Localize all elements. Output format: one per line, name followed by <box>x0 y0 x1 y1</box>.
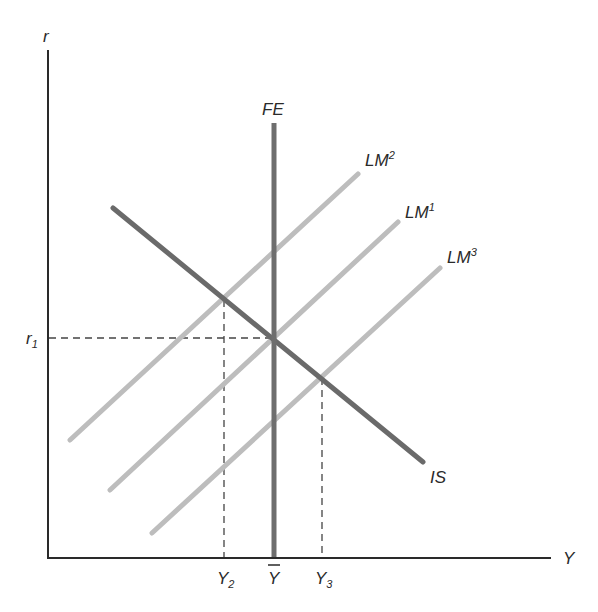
lm3-label-base: LM <box>447 248 471 267</box>
lm1-curve <box>110 222 398 490</box>
lm3-label-sup: 3 <box>471 246 478 258</box>
lm1-label: LM1 <box>405 201 435 222</box>
lm1-label-base: LM <box>405 203 429 222</box>
y2-tick-label: Y2 <box>217 569 234 590</box>
y3-tick-label: Y3 <box>315 569 333 590</box>
is-label: IS <box>430 468 447 487</box>
y3-sub: 3 <box>326 578 333 590</box>
lm2-label-base: LM <box>365 151 389 170</box>
lm2-label: LM2 <box>365 149 395 170</box>
fe-label: FE <box>262 100 284 119</box>
ybar-tick-label: Y <box>268 569 281 588</box>
y-axis-label: r <box>43 27 50 46</box>
y2-sub: 2 <box>227 578 234 590</box>
lm1-label-sup: 1 <box>429 201 435 213</box>
lm3-label: LM3 <box>447 246 478 267</box>
r1-sub: 1 <box>32 338 38 350</box>
x-axis-label: Y <box>563 549 576 568</box>
is-lm-fe-diagram: r Y FE IS LM2 LM1 LM3 r1 Y2 Y Y3 <box>0 0 598 612</box>
lm3-curve <box>152 268 440 533</box>
lm2-curve <box>70 174 358 440</box>
lm2-label-sup: 2 <box>388 149 395 161</box>
r1-tick-label: r1 <box>26 329 38 350</box>
